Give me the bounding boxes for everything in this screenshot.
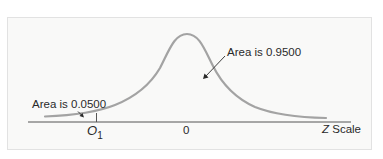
critical-value-label: O1 <box>87 124 103 141</box>
center-tick-label: 0 <box>183 125 189 137</box>
upper-area-label: Area is 0.9500 <box>227 47 301 59</box>
upper-area-arrow <box>203 56 225 79</box>
critical-value-main: O <box>87 123 97 138</box>
lower-area-label: Area is 0.0500 <box>32 99 106 111</box>
critical-value-subscript: 1 <box>97 130 103 141</box>
axis-scale-label: Z Scale <box>322 124 361 136</box>
axis-variable: Z <box>322 123 329 135</box>
axis-scale-text: Scale <box>332 123 361 135</box>
